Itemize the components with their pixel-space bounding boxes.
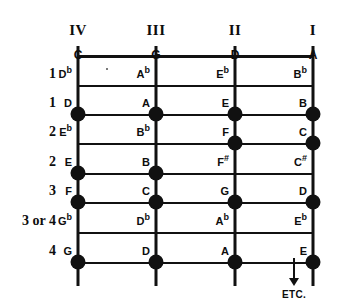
finger-number-row-4: 2 bbox=[49, 154, 56, 170]
open-string-note-G: G bbox=[151, 48, 160, 62]
fret-line-3 bbox=[78, 143, 313, 145]
etc-label: ETC. bbox=[282, 289, 306, 300]
string-number-II: II bbox=[229, 22, 242, 39]
note-label-E-flat-sI: Eb bbox=[294, 215, 310, 226]
continuation-marker: ETC. bbox=[282, 258, 306, 300]
fret-line-5 bbox=[78, 202, 313, 204]
nut-line bbox=[78, 55, 313, 58]
finger-dot-row7-string-II bbox=[228, 255, 243, 270]
string-line-I bbox=[312, 46, 315, 286]
fret-line-1 bbox=[78, 85, 313, 87]
finger-dot-row5-string-I bbox=[306, 195, 321, 210]
finger-dot-row5-string-II bbox=[228, 195, 243, 210]
finger-dot-row2-string-I bbox=[306, 107, 321, 122]
finger-dot-row5-string-IV bbox=[71, 195, 86, 210]
note-label-D-flat-sIII: Db bbox=[137, 215, 153, 226]
open-string-note-D: D bbox=[231, 48, 240, 62]
note-label-B-sIII: B bbox=[142, 156, 153, 167]
finger-number-row-6: 3 or 4 bbox=[22, 213, 56, 229]
fret-line-4 bbox=[78, 173, 313, 175]
finger-dot-row3-string-I bbox=[306, 136, 321, 151]
finger-number-row-5: 3 bbox=[49, 183, 56, 199]
note-label-G-flat-sIV: Gb bbox=[58, 215, 75, 226]
finger-dot-row2-string-III bbox=[149, 107, 164, 122]
note-label-D-flat-sIV: Db bbox=[59, 68, 75, 79]
down-arrow-icon bbox=[289, 278, 299, 286]
fret-line-7 bbox=[78, 262, 313, 264]
note-label-E-flat-sII: Eb bbox=[216, 68, 232, 79]
note-label-E-flat-sIV: Eb bbox=[59, 126, 75, 137]
fret-line-2 bbox=[78, 114, 313, 116]
note-label-A-flat-sII: Ab bbox=[216, 215, 232, 226]
note-label-B-flat-sI: Bb bbox=[294, 68, 310, 79]
finger-dot-row2-string-II bbox=[228, 107, 243, 122]
finger-number-row-2: 1 bbox=[49, 95, 56, 111]
scan-speck bbox=[106, 68, 108, 70]
finger-dot-row2-string-IV bbox=[71, 107, 86, 122]
finger-dot-row4-string-IV bbox=[71, 166, 86, 181]
fret-line-6 bbox=[78, 232, 313, 234]
note-label-A-sII: A bbox=[221, 245, 232, 256]
finger-dot-row4-string-III bbox=[149, 166, 164, 181]
string-number-I: I bbox=[310, 22, 316, 39]
finger-dot-row5-string-III bbox=[149, 195, 164, 210]
note-label-G-sIV: G bbox=[63, 245, 75, 256]
open-string-note-C: C bbox=[74, 48, 83, 62]
note-label-D-sIII: D bbox=[142, 245, 153, 256]
note-label-F-sharp-sII: F# bbox=[217, 156, 232, 167]
finger-dot-row7-string-IV bbox=[71, 255, 86, 270]
string-number-IV: IV bbox=[69, 22, 87, 39]
note-label-C-sharp-sI: C# bbox=[294, 156, 310, 167]
finger-number-row-3: 2 bbox=[49, 124, 56, 140]
finger-dot-row7-string-III bbox=[149, 255, 164, 270]
note-label-B-flat-sIII: Bb bbox=[137, 126, 153, 137]
fingerboard-diagram: IVCIIIGIIDIA1DbAbEbBb1DAEB2EbBbFC2EBF#C#… bbox=[0, 0, 337, 305]
finger-number-row-7: 4 bbox=[49, 243, 56, 259]
finger-dot-row3-string-II bbox=[228, 136, 243, 151]
down-arrow-icon-shaft bbox=[293, 258, 295, 278]
finger-dot-row7-string-I bbox=[306, 255, 321, 270]
string-line-II bbox=[234, 46, 237, 286]
open-string-note-A: A bbox=[309, 48, 318, 62]
note-label-A-flat-sIII: Ab bbox=[137, 68, 153, 79]
finger-number-row-1: 1 bbox=[49, 66, 56, 82]
string-number-III: III bbox=[146, 22, 165, 39]
